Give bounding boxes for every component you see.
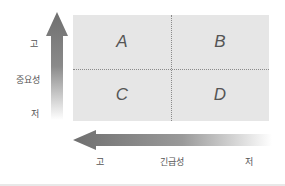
- y-axis-high-label: 고: [30, 37, 38, 50]
- quadrant-d: D: [171, 68, 269, 121]
- x-axis-high-label: 고: [96, 155, 104, 168]
- urgency-arrow: [72, 128, 272, 152]
- quadrant-a: A: [73, 15, 171, 68]
- bottom-rule: [0, 184, 285, 186]
- importance-arrow: [44, 10, 70, 120]
- x-axis-low-label: 저: [245, 155, 253, 168]
- y-axis-title: 중요성: [16, 73, 40, 86]
- x-axis-title: 긴급성: [160, 155, 184, 168]
- y-axis-low-label: 저: [31, 107, 39, 120]
- quadrant-b: B: [171, 15, 269, 68]
- quadrant-c: C: [73, 68, 171, 121]
- priority-matrix: A B C D: [73, 15, 269, 121]
